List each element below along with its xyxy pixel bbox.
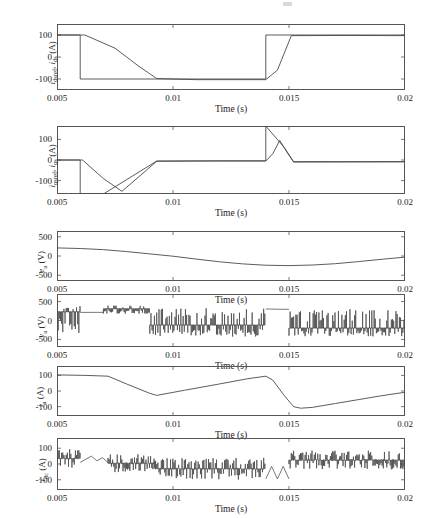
plot-ea-xtick-1: 0.01 bbox=[165, 284, 181, 294]
plot-ia-ytick-2: 100 bbox=[39, 370, 58, 380]
plot-iqs-xlabel: Time (s) bbox=[57, 208, 405, 218]
plot-idc: -10001000.0050.010.0150.02idc (A)Time (s… bbox=[57, 438, 405, 490]
plot-ia: -10001000.0050.010.0150.02ia (A)Time (s) bbox=[57, 366, 405, 416]
plot-ids-xlabel: Time (s) bbox=[57, 104, 405, 114]
plot-ids-xtick-3: 0.02 bbox=[397, 93, 413, 103]
plot-ea-ytick-1: 0 bbox=[48, 251, 58, 261]
plot-va-xtick-0: 0.005 bbox=[47, 350, 67, 360]
plot-ea-xtick-0: 0.005 bbox=[47, 284, 67, 294]
plot-ia-xtick-1: 0.01 bbox=[165, 419, 181, 429]
plot-va-canvas bbox=[57, 294, 405, 347]
plot-idc-canvas bbox=[57, 438, 405, 490]
plot-idc-xlabel: Time (s) bbox=[57, 504, 405, 514]
plot-ids-xtick-0: 0.005 bbox=[47, 93, 67, 103]
plot-va-ylabel: va (V) bbox=[36, 316, 48, 338]
plot-ids-xtick-2: 0.015 bbox=[279, 93, 299, 103]
plot-va-ytick-1: 0 bbox=[48, 316, 58, 326]
plot-ids-ylabel: idsref, ids (A) bbox=[47, 41, 59, 84]
plot-ids-ytick-2: 100 bbox=[39, 30, 58, 40]
plot-ids-canvas bbox=[57, 24, 405, 90]
plot-ea-ytick-2: 500 bbox=[39, 232, 58, 242]
plot-iqs-xtick-2: 0.015 bbox=[279, 197, 299, 207]
plot-iqs-ylabel: iqsref, iqs (A) bbox=[47, 144, 59, 187]
plot-idc-xtick-1: 0.01 bbox=[165, 493, 181, 503]
plot-ia-ytick-1: 0 bbox=[48, 386, 58, 396]
plot-ia-xtick-0: 0.005 bbox=[47, 419, 67, 429]
figure-canvas: -10001000.0050.010.0150.02idsref, ids (A… bbox=[0, 0, 432, 518]
plot-ia-canvas bbox=[57, 366, 405, 416]
plot-ia-xtick-3: 0.02 bbox=[397, 419, 413, 429]
plot-idc-ytick-2: 100 bbox=[39, 443, 58, 453]
plot-idc-ylabel: idc (A) bbox=[37, 458, 49, 481]
plot-ea-ylabel: ea (V) bbox=[36, 251, 48, 273]
plot-idc-xtick-0: 0.005 bbox=[47, 493, 67, 503]
plot-ea: -50005000.0050.010.0150.02ea (V)Time (s) bbox=[57, 231, 405, 281]
page-artifact-mark bbox=[283, 2, 292, 6]
plot-iqs-xtick-0: 0.005 bbox=[47, 197, 67, 207]
plot-idc-xtick-3: 0.02 bbox=[397, 493, 413, 503]
plot-va-xtick-2: 0.015 bbox=[279, 350, 299, 360]
plot-va-xtick-1: 0.01 bbox=[165, 350, 181, 360]
plot-ea-xtick-3: 0.02 bbox=[397, 284, 413, 294]
plot-iqs-xtick-1: 0.01 bbox=[165, 197, 181, 207]
plot-ea-xtick-2: 0.015 bbox=[279, 284, 299, 294]
plot-idc-xtick-2: 0.015 bbox=[279, 493, 299, 503]
plot-iqs-canvas bbox=[57, 126, 405, 194]
plot-ids-xtick-1: 0.01 bbox=[165, 93, 181, 103]
plot-va: -50005000.0050.010.0150.02va (V)Time (s) bbox=[57, 294, 405, 347]
plot-ia-xtick-2: 0.015 bbox=[279, 419, 299, 429]
plot-idc-ytick-1: 0 bbox=[48, 459, 58, 469]
plot-ea-canvas bbox=[57, 231, 405, 281]
plot-iqs-xtick-3: 0.02 bbox=[397, 197, 413, 207]
plot-ids: -10001000.0050.010.0150.02idsref, ids (A… bbox=[57, 24, 405, 90]
plot-iqs-ytick-2: 100 bbox=[39, 134, 58, 144]
plot-ia-ylabel: ia (A) bbox=[35, 387, 47, 407]
plot-va-ytick-2: 500 bbox=[39, 297, 58, 307]
plot-iqs: -10001000.0050.010.0150.02iqsref, iqs (A… bbox=[57, 126, 405, 194]
plot-va-xtick-3: 0.02 bbox=[397, 350, 413, 360]
